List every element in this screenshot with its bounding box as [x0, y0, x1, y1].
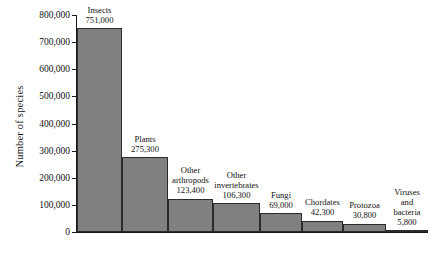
bar[interactable] [260, 213, 302, 232]
bar-value-label: 5,800 [376, 217, 438, 227]
bar-category-label: Viruses [376, 187, 438, 197]
bar-label: Otherinvertebrates106,300 [206, 170, 268, 201]
bar[interactable] [77, 28, 122, 232]
y-axis-tick-label: 500,000 [39, 91, 70, 101]
y-axis-tick-label: 100,000 [39, 200, 70, 210]
bar[interactable] [168, 199, 213, 232]
bar-category-label: and [376, 197, 438, 207]
bar-group[interactable]: Plants275,300 [122, 15, 168, 232]
bar-category-label: Other [206, 170, 268, 180]
bar[interactable] [122, 157, 168, 232]
y-axis-tick [72, 232, 77, 233]
bar-label: Chordates42,300 [305, 197, 340, 217]
bar-group[interactable]: Virusesandbacteria5,800 [386, 15, 428, 232]
bar-category-label: invertebrates [206, 180, 268, 190]
bar-value-label: 751,000 [86, 15, 114, 25]
bar-category-label: Protozoa [349, 200, 380, 210]
bar-value-label: 106,300 [206, 190, 268, 200]
y-axis-title: Number of species [8, 0, 30, 253]
bar[interactable] [302, 221, 343, 232]
bar-group[interactable]: Otherarthropods123,400 [168, 15, 213, 232]
bar-label: Virusesandbacteria5,800 [376, 187, 438, 228]
bar-label: Protozoa30,800 [349, 200, 380, 220]
bar[interactable] [213, 203, 260, 232]
bar-category-label: Fungi [269, 190, 293, 200]
bar-value-label: 42,300 [305, 207, 340, 217]
bar-value-label: 69,000 [269, 200, 293, 210]
y-axis-tick-label: 700,000 [39, 37, 70, 47]
bar-group[interactable]: Fungi69,000 [260, 15, 302, 232]
bar-value-label: 30,800 [349, 210, 380, 220]
bar-group[interactable]: Insects751,000 [77, 15, 122, 232]
bar[interactable] [343, 224, 386, 232]
y-axis-tick-label: 600,000 [39, 64, 70, 74]
bar-label: Insects751,000 [86, 5, 114, 25]
chart-page: Number of species 800,000700,000600,0005… [0, 0, 446, 253]
y-axis-tick-label: 800,000 [39, 10, 70, 20]
bar-category-label: Insects [86, 5, 114, 15]
bar[interactable] [386, 230, 428, 232]
bar-label: Plants275,300 [131, 134, 159, 154]
bar-group[interactable]: Otherinvertebrates106,300 [213, 15, 260, 232]
y-axis-tick-label: 200,000 [39, 173, 70, 183]
bar-category-label: Chordates [305, 197, 340, 207]
bar-category-label: bacteria [376, 207, 438, 217]
y-axis-tick-label: 300,000 [39, 146, 70, 156]
bar-value-label: 275,300 [131, 144, 159, 154]
y-axis-tick-label: 400,000 [39, 119, 70, 129]
y-axis-tick-label: 0 [65, 227, 70, 237]
bar-group[interactable]: Chordates42,300 [302, 15, 343, 232]
x-axis-line [76, 232, 428, 233]
bar-group[interactable]: Protozoa30,800 [343, 15, 386, 232]
bar-series: Insects751,000Plants275,300Otherarthropo… [77, 15, 428, 232]
plot-area: 800,000700,000600,000500,000400,000300,0… [77, 15, 428, 232]
bar-category-label: Plants [131, 134, 159, 144]
bar-label: Fungi69,000 [269, 190, 293, 210]
